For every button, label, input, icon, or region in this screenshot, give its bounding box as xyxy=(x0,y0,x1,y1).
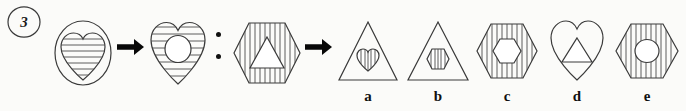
stem-figure-circle-with-striped-heart xyxy=(52,18,114,88)
question-number-text: 3 xyxy=(6,5,42,39)
option-d-figure[interactable] xyxy=(547,16,607,84)
stem-figure-striped-heart-with-circle xyxy=(148,18,208,88)
option-c-figure[interactable] xyxy=(475,20,539,82)
arrow-right-icon-1 xyxy=(117,36,145,58)
option-label-b[interactable]: b xyxy=(418,88,458,105)
colon-dot-top xyxy=(216,32,221,37)
option-label-c[interactable]: c xyxy=(487,88,527,105)
arrow-right-icon-2 xyxy=(305,36,333,58)
option-a-figure[interactable] xyxy=(337,18,399,84)
option-label-e[interactable]: e xyxy=(627,88,667,105)
colon-dot-bottom xyxy=(216,54,221,59)
option-e-figure[interactable] xyxy=(614,20,680,82)
stem-figure-striped-hexagon-with-triangle xyxy=(232,18,302,88)
inner-heart-shape xyxy=(61,33,105,80)
visual-analogy-puzzle: 3 xyxy=(0,0,686,111)
option-label-a[interactable]: a xyxy=(348,88,388,105)
option-b-figure[interactable] xyxy=(406,18,470,84)
analogy-colon-separator xyxy=(213,28,225,68)
question-number-badge: 3 xyxy=(6,5,42,39)
inner-circle-shape xyxy=(165,36,191,63)
inner-heart-horizontal-stripes xyxy=(57,39,109,75)
inner-circle-shape xyxy=(635,40,659,63)
inner-triangle-shape xyxy=(562,38,592,62)
option-label-d[interactable]: d xyxy=(557,88,597,105)
